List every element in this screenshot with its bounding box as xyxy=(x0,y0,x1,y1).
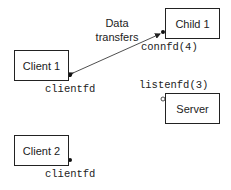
server-label: Server xyxy=(176,103,208,115)
client2-box: Client 2 xyxy=(14,135,69,166)
client2-label: Client 2 xyxy=(23,145,60,157)
client2-clientfd-label: clientfd xyxy=(45,169,95,180)
client1-clientfd-label: clientfd xyxy=(45,84,95,95)
server-listenfd-label: listenfd(3) xyxy=(139,80,208,91)
diagram-canvas: Child 1 connfd(4) Data transfers Client … xyxy=(0,0,231,190)
data-transfers-line2: transfers xyxy=(92,30,142,44)
data-transfers-line1: Data xyxy=(92,16,142,30)
client1-label: Client 1 xyxy=(23,60,60,72)
child1-label: Child 1 xyxy=(175,18,209,30)
child1-box: Child 1 xyxy=(165,8,220,39)
client1-box: Client 1 xyxy=(14,50,69,81)
data-transfers-label: Data transfers xyxy=(92,16,142,44)
server-box: Server xyxy=(165,93,220,124)
child1-connfd-label: connfd(4) xyxy=(141,42,198,53)
